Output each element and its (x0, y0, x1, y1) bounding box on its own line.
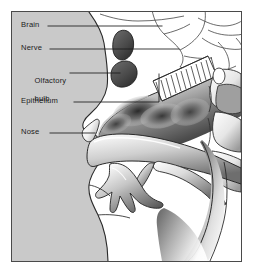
label-epithelium: Epithelium (21, 96, 58, 105)
label-olfactory-line1: Olfactory (35, 76, 67, 85)
anatomy-figure-frame: Brain Nerve Olfactory bulb Epithelium No… (11, 11, 242, 262)
frontal-sinus (113, 30, 134, 60)
figure-root: Brain Nerve Olfactory bulb Epithelium No… (0, 0, 258, 278)
intervertebral-disc (213, 68, 225, 84)
anatomy-illustration (12, 12, 241, 261)
label-olfactory-bulb: Olfactory bulb (21, 67, 66, 112)
label-brain: Brain (21, 20, 39, 29)
label-nose: Nose (21, 127, 39, 136)
label-nerve: Nerve (21, 43, 42, 52)
